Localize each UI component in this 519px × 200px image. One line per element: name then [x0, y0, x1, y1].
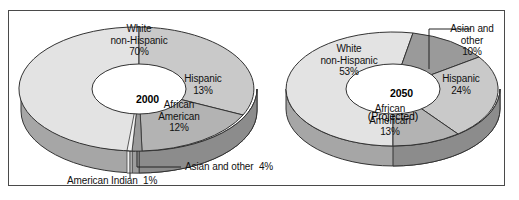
center-label-2050-note: (Projected): [357, 111, 429, 123]
figure-frame: White non-Hispanic 70% Hispanic 13% Afri…: [8, 10, 505, 186]
center-label-2050: 2050 (Projected): [357, 76, 429, 145]
pie-chart-2050: [9, 11, 506, 187]
figure-container: White non-Hispanic 70% Hispanic 13% Afri…: [0, 0, 519, 200]
center-label-2050-year: 2050: [390, 87, 413, 99]
label-asian-and-other-2050: Asian and other 10%: [441, 23, 503, 58]
label-white-non-hispanic-2050: White non-Hispanic 53%: [297, 43, 401, 78]
label-hispanic-2050: Hispanic 24%: [427, 73, 495, 96]
